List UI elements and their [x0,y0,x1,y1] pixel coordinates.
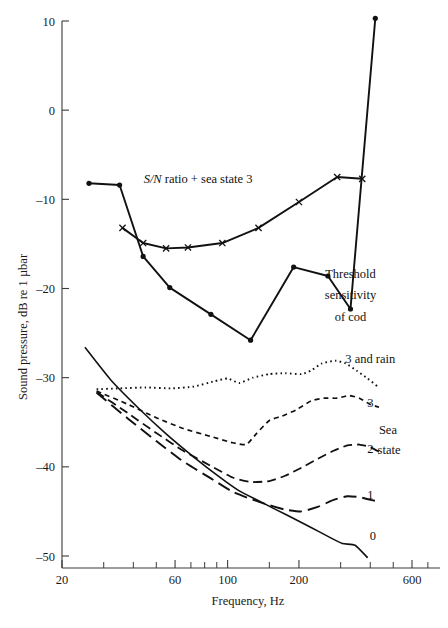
x-tick-label-60: 60 [169,573,182,587]
data-point-marker [119,225,125,231]
x-tick-label-20: 20 [56,573,69,587]
data-point-marker [373,16,378,21]
threshold-label-2: sensitivity [325,288,377,302]
y-tick-label--20: –20 [35,282,55,296]
x-tick-label-100: 100 [218,573,237,587]
series-sea-state-3 [97,391,379,445]
y-tick-label-0: 0 [49,104,55,118]
sea-state-caption-1: Sea [379,423,398,437]
series-path [97,392,379,482]
sea-state-3-rain-label: 3 and rain [345,352,396,366]
x-tick-label-600: 600 [403,573,422,587]
chart-annotations: S/N ratio + sea state 3Thresholdsensitiv… [144,172,401,543]
x-tick-label-200: 200 [290,573,309,587]
sn-ratio-label: S/N ratio + sea state 3 [144,172,253,186]
sea-state-3-label: 3 [367,396,373,410]
y-axis-title: Sound pressure, dB re 1 µbar [16,253,30,400]
data-point-marker [141,254,146,259]
axes [62,21,440,568]
y-tick-label--30: –30 [35,371,55,385]
y-axis-ticks: 100–10–20–30–40–50 [35,15,69,564]
figure-container: 100–10–20–30–40–50 2060100200600 S/N rat… [0,0,448,628]
series-path [97,393,379,512]
series-sea-state-2 [97,392,379,482]
data-point-marker [248,338,253,343]
sound-pressure-frequency-chart: 100–10–20–30–40–50 2060100200600 S/N rat… [0,0,448,628]
x-axis-title: Frequency, Hz [212,594,285,608]
series-path [122,177,362,248]
data-point-marker [291,265,296,270]
data-point-marker [208,312,213,317]
y-tick-label--10: –10 [35,193,55,207]
x-axis-ticks: 2060100200600 [56,560,428,587]
threshold-label-1: Threshold [325,267,376,281]
data-point-marker [117,182,122,187]
data-point-marker [296,199,302,205]
sea-state-0-label: 0 [370,529,376,543]
y-tick-label--50: –50 [35,550,55,564]
sea-state-2-label: 2 [367,442,373,456]
sea-state-1-label: 1 [367,488,373,502]
sea-state-caption-2: state [378,443,401,457]
data-series-group [85,16,379,558]
y-tick-label--40: –40 [35,460,55,474]
series-sea-state-3-and-rain [97,361,378,390]
series-sea-state-1 [97,393,379,512]
series-path [97,361,378,390]
data-point-marker [86,181,91,186]
y-tick-label-10: 10 [43,15,56,29]
data-point-marker [167,285,172,290]
series-path [97,391,379,445]
threshold-label-3: of cod [335,310,367,324]
